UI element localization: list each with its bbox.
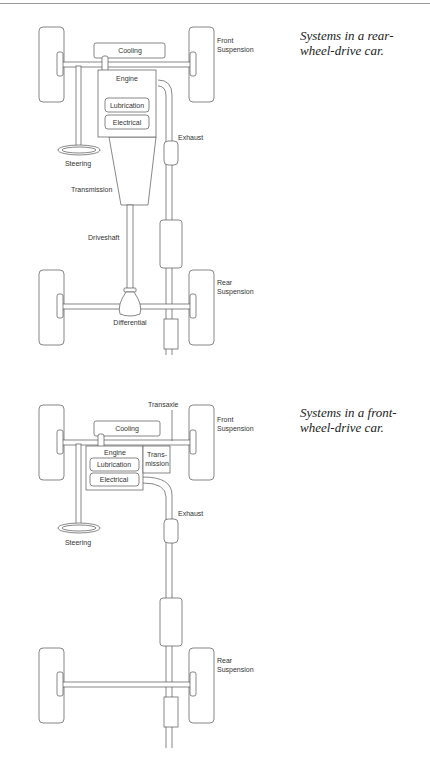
rear-left-hub — [57, 672, 63, 696]
exhaust-label: Exhaust — [178, 510, 203, 517]
exhaust-tailpipe — [164, 697, 178, 727]
transmission-label-line1: Trans- — [147, 451, 168, 458]
car-systems-diagrams: Cooling Steering Transmission Engine Lub… — [0, 0, 430, 766]
caption-line: wheel-drive car. — [300, 420, 410, 435]
steering-column — [76, 66, 81, 148]
caption-line: Systems in a rear- — [300, 28, 410, 43]
front-suspension-label-line2: Suspension — [217, 46, 254, 54]
rear-suspension-label-line2: Suspension — [217, 666, 254, 674]
rear-suspension-label-line1: Rear — [217, 657, 233, 664]
front-right-hub — [190, 430, 196, 454]
exhaust-pipe — [158, 80, 172, 355]
exhaust-muffler-middle — [160, 220, 182, 268]
caption-line: Systems in a front- — [300, 405, 410, 420]
electrical-label: Electrical — [100, 476, 129, 483]
front-axle — [62, 440, 192, 445]
cooling-label: Cooling — [118, 47, 142, 55]
steering-wheel — [58, 145, 100, 155]
rear-right-hub — [190, 294, 196, 318]
steering-label: Steering — [65, 539, 91, 547]
engine-label: Engine — [116, 75, 138, 83]
engine-label: Engine — [104, 449, 126, 457]
front-left-hub — [57, 52, 63, 76]
driveshaft-label: Driveshaft — [88, 234, 120, 241]
lubrication-label: Lubrication — [97, 461, 131, 468]
front-left-hub — [57, 430, 63, 454]
transmission-label-line2: mission — [145, 460, 169, 467]
rear-axle — [62, 682, 192, 687]
electrical-label: Electrical — [113, 119, 142, 126]
steering-label: Steering — [65, 160, 91, 168]
transmission-cone — [109, 137, 156, 205]
exhaust-tailpipe — [164, 319, 178, 349]
differential-flange — [124, 288, 136, 292]
front-suspension-label-line1: Front — [217, 37, 233, 44]
exhaust-label: Exhaust — [178, 134, 203, 141]
rear-wheel-drive-caption: Systems in a rear- wheel-drive car. — [300, 28, 410, 58]
front-suspension-label-line1: Front — [217, 416, 233, 423]
lubrication-label: Lubrication — [110, 102, 144, 109]
rear-left-hub — [57, 294, 63, 318]
front-wheel-drive-diagram: Transaxle Cooling Steering Engine Lubric… — [39, 401, 254, 748]
caption-line: wheel-drive car. — [300, 43, 410, 58]
differential-label: Differential — [113, 319, 147, 326]
exhaust-muffler-front — [164, 519, 178, 543]
front-suspension-label-line2: Suspension — [217, 425, 254, 433]
rear-right-hub — [190, 672, 196, 696]
rear-suspension-label-line1: Rear — [217, 279, 233, 286]
front-wheel-drive-caption: Systems in a front- wheel-drive car. — [300, 405, 410, 435]
exhaust-muffler-middle — [160, 598, 182, 646]
cooling-label: Cooling — [115, 425, 139, 433]
front-axle — [62, 62, 192, 67]
transaxle-label: Transaxle — [148, 401, 179, 408]
rear-wheel-drive-diagram: Cooling Steering Transmission Engine Lub… — [39, 27, 254, 355]
driveshaft — [127, 205, 133, 299]
differential-housing — [119, 292, 141, 316]
front-right-hub — [190, 52, 196, 76]
exhaust-muffler-front — [164, 141, 178, 165]
steering-column — [76, 444, 81, 526]
rear-suspension-label-line2: Suspension — [217, 288, 254, 296]
transmission-label: Transmission — [71, 186, 112, 193]
steering-wheel — [58, 523, 100, 533]
